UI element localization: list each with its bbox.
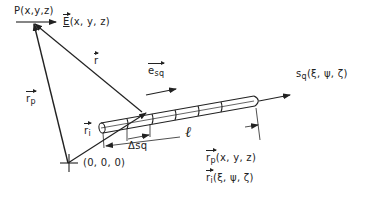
point-p-label: P(x,y,z) <box>14 6 54 16</box>
legend-rp: rp(x, y, z) <box>206 153 256 165</box>
field-e-label: E(x, y, z) <box>63 17 110 27</box>
origin-label: (0, 0, 0) <box>83 158 125 168</box>
source-axis-arrow <box>259 95 290 101</box>
vector-r-label: r <box>94 56 98 66</box>
vector-rp-label: rp <box>26 94 36 106</box>
vector-rp-line <box>34 24 68 163</box>
delta-sq-dimension <box>128 135 149 139</box>
vector-ri-label: ri <box>84 126 91 138</box>
unit-vector-e-label: esq <box>148 66 164 78</box>
source-sq-label: sq(ξ, ψ, ζ) <box>296 69 348 81</box>
unit-vector-e-arrow <box>146 89 176 95</box>
length-dimension-right <box>245 125 258 127</box>
delta-sq-label: Δsq <box>128 141 147 151</box>
legend-ri: ri(ξ, ψ, ζ) <box>206 173 254 185</box>
diagram-canvas <box>0 0 366 197</box>
vector-r-line <box>35 24 142 112</box>
length-label: ℓ <box>185 125 192 140</box>
